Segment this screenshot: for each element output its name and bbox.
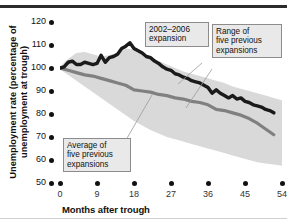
y-tick-label: 70: [22, 131, 46, 141]
y-tick-label: 110: [22, 39, 46, 49]
top-divider: [0, 5, 287, 8]
x-tick-label: 36: [198, 189, 218, 199]
x-axis-label: Months after trough: [62, 204, 150, 215]
y-tick-dot: [49, 112, 54, 117]
y-tick-dot: [49, 158, 54, 163]
x-tick-label: 9: [87, 189, 107, 199]
annotation-range-five-previous: Range of five previous expansions: [212, 24, 282, 58]
y-tick-label: 100: [22, 62, 46, 72]
x-tick-label: 27: [161, 189, 181, 199]
chart-figure: Unemployment rate (percentage of unemplo…: [0, 0, 287, 223]
y-tick-dot: [49, 43, 54, 48]
y-tick-label: 50: [22, 177, 46, 187]
bottom-divider: [0, 218, 287, 219]
y-tick-label: 60: [22, 154, 46, 164]
y-tick-dot: [49, 20, 54, 25]
y-tick-dot: [49, 181, 54, 186]
annotation-average-five-previous: Average of five previous expansions: [63, 138, 131, 172]
y-tick-dot: [49, 135, 54, 140]
x-tick-label: 54: [272, 189, 287, 199]
y-tick-dot: [49, 89, 54, 94]
y-tick-label: 80: [22, 108, 46, 118]
x-tick-label: 45: [235, 189, 255, 199]
y-tick-dot: [49, 66, 54, 71]
annotation-2002-2006-expansion: 2002–2006 expansion: [145, 22, 209, 47]
y-tick-label: 90: [22, 85, 46, 95]
x-tick-label: 0: [50, 189, 70, 199]
x-tick-label: 18: [124, 189, 144, 199]
y-tick-label: 120: [22, 16, 46, 26]
